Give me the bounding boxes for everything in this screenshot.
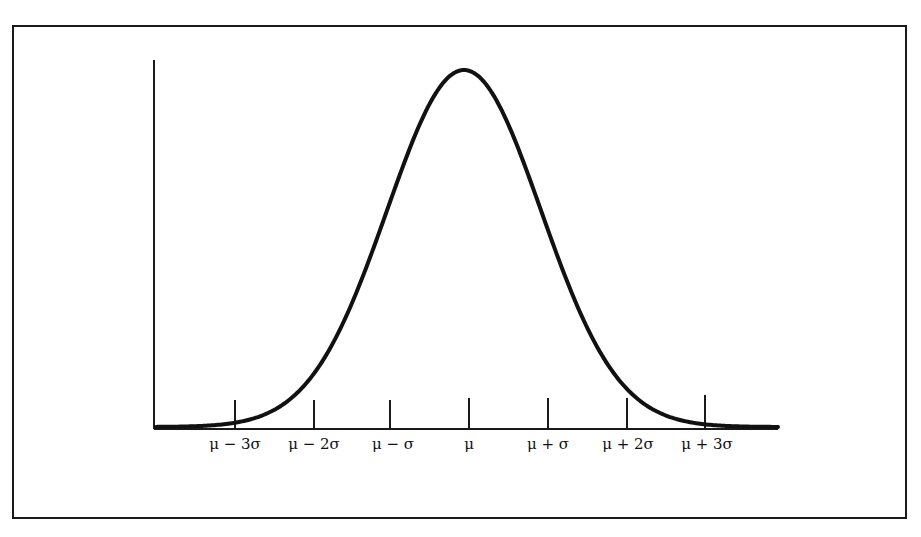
x-ticks	[235, 395, 705, 429]
label-plus-1-sigma: μ + σ	[527, 435, 569, 453]
label-minus-3-sigma: μ − 3σ	[209, 435, 261, 453]
label-mean: μ	[464, 435, 474, 453]
x-tick-labels: μ − 3σ μ − 2σ μ − σ μ μ + σ μ + 2σ μ + 3…	[209, 435, 733, 453]
label-minus-1-sigma: μ − σ	[372, 435, 414, 453]
normal-distribution-chart: μ − 3σ μ − 2σ μ − σ μ μ + σ μ + 2σ μ + 3…	[0, 0, 921, 537]
normal-curve	[156, 70, 778, 427]
label-plus-2-sigma: μ + 2σ	[602, 435, 654, 453]
label-minus-2-sigma: μ − 2σ	[288, 435, 340, 453]
label-plus-3-sigma: μ + 3σ	[681, 435, 733, 453]
